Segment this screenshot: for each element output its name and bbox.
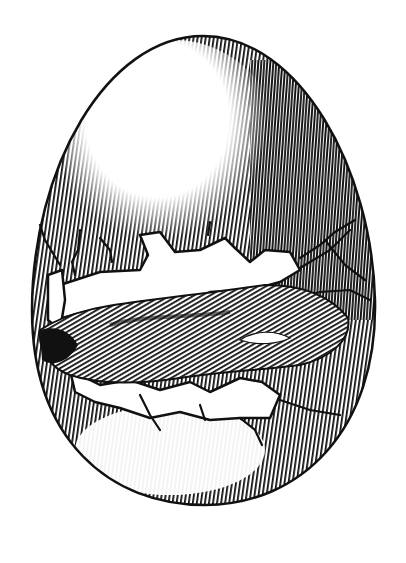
- egg-illustration: [0, 0, 406, 563]
